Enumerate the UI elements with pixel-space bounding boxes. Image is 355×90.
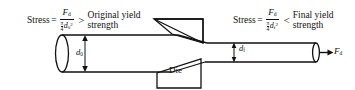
draw-force-label: Fd bbox=[334, 47, 342, 57]
right-relation-sign: < bbox=[283, 15, 289, 27]
left-formula-denominator: π 4 d02 bbox=[60, 21, 74, 33]
left-stress-formula: Stress = Fd π 4 d02 > Original yield str… bbox=[27, 8, 141, 33]
die-label: Die bbox=[169, 66, 182, 75]
initial-diameter-label: d0 bbox=[76, 48, 83, 58]
right-formula-lead: Stress bbox=[233, 16, 256, 26]
drawn-wire-end-ellipse bbox=[313, 43, 320, 62]
right-formula-denominator: π 4 df2 bbox=[266, 21, 279, 33]
right-formula-numerator: Fd bbox=[267, 8, 277, 18]
left-formula-equals: = bbox=[51, 16, 56, 26]
right-yield-comparison: Final yield strength bbox=[293, 10, 334, 31]
right-formula-equals: = bbox=[257, 16, 262, 26]
left-yield-comparison: Original yield strength bbox=[88, 10, 141, 31]
left-formula-numerator: Fd bbox=[62, 8, 72, 18]
right-stress-formula: Stress = Fd π 4 df2 < Final yield streng… bbox=[233, 8, 334, 33]
right-denominator-var: df2 bbox=[270, 22, 278, 31]
left-yield-line1: Original yield bbox=[88, 10, 141, 20]
left-formula-fraction: Fd π 4 d02 bbox=[60, 8, 74, 33]
figure-canvas: Stress = Fd π 4 d02 > Original yield str… bbox=[0, 0, 355, 90]
left-formula-lead: Stress bbox=[27, 16, 50, 26]
d0-arrowhead-bottom bbox=[82, 66, 88, 72]
left-relation-sign: > bbox=[78, 15, 84, 27]
draw-force-arrowhead bbox=[328, 50, 334, 56]
left-yield-line2: strength bbox=[88, 20, 119, 30]
d0-arrowhead-top bbox=[82, 35, 88, 41]
upper-die-body bbox=[154, 19, 203, 43]
left-denominator-var: d02 bbox=[64, 22, 73, 31]
final-diameter-label: df bbox=[239, 44, 245, 54]
right-yield-line1: Final yield bbox=[293, 10, 334, 20]
right-yield-line2: strength bbox=[293, 20, 324, 30]
right-formula-fraction: Fd π 4 df2 bbox=[266, 8, 279, 33]
workpiece-end-ellipse bbox=[56, 35, 69, 72]
